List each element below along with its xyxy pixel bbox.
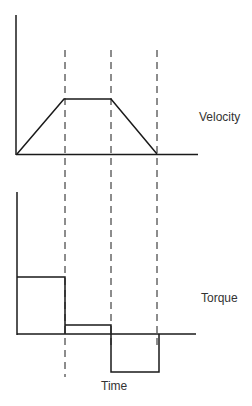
torque-label: Torque (201, 291, 238, 305)
time-axis-label: Time (101, 379, 128, 393)
velocity-label: Velocity (199, 110, 240, 124)
motion-profile-diagram: Velocity Torque Time (0, 0, 252, 406)
torque-constant-step (65, 325, 111, 334)
velocity-curve (17, 99, 157, 154)
torque-acceleration-step (17, 277, 65, 334)
torque-deceleration-step (111, 334, 159, 372)
